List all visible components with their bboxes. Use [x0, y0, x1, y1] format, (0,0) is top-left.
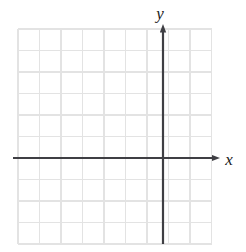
- coordinate-plane-svg: x y: [0, 0, 246, 252]
- coordinate-grid-figure: x y: [0, 0, 246, 252]
- grid-lines: [18, 29, 212, 244]
- y-axis-label: y: [154, 4, 164, 23]
- x-axis-label: x: [224, 150, 233, 169]
